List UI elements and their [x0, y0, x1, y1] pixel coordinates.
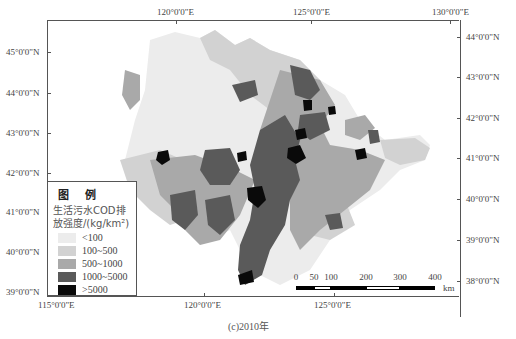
top-tick	[176, 20, 177, 24]
scale-segment	[366, 286, 400, 290]
right-axis-label: 38°0'0"N	[466, 276, 499, 286]
bottom-axis-label: 125°0'0"E	[314, 300, 351, 310]
legend-label: 100~500	[82, 245, 117, 256]
left-axis-label: 42°0'0"N	[6, 168, 39, 178]
bottom-tick	[334, 293, 335, 297]
right-axis-label: 39°0'0"N	[466, 235, 499, 245]
right-tick	[457, 281, 461, 282]
scale-segment	[296, 286, 314, 290]
left-axis-label: 41°0'0"N	[6, 207, 39, 217]
right-axis-line	[460, 20, 461, 317]
top-axis-label: 130°0'0"E	[432, 7, 469, 17]
right-tick	[457, 240, 461, 241]
bottom-axis-label: 115°0'0"E	[38, 300, 75, 310]
right-axis-label: 44°0'0"N	[466, 32, 499, 42]
right-tick	[457, 118, 461, 119]
legend-swatch	[58, 272, 76, 282]
left-axis-label: 39°0'0"N	[6, 287, 39, 297]
top-axis-label: 125°0'0"E	[293, 7, 330, 17]
left-tick	[47, 93, 51, 94]
right-tick	[457, 199, 461, 200]
top-axis-label: 120°0'0"E	[157, 7, 194, 17]
figure-caption: (c)2010年	[228, 318, 269, 333]
scale-unit: km	[443, 283, 455, 293]
legend-swatch	[58, 285, 76, 295]
legend-label: 1000~5000	[82, 271, 127, 282]
right-axis-label: 42°0'0"N	[466, 113, 499, 123]
right-axis-label: 40°0'0"N	[466, 194, 499, 204]
scale-segment	[331, 286, 366, 290]
legend-subtitle: 放强度/(kg/km²)	[53, 215, 129, 230]
left-tick	[47, 133, 51, 134]
right-tick	[457, 158, 461, 159]
legend-swatch	[58, 233, 76, 243]
right-axis-label: 43°0'0"N	[466, 72, 499, 82]
scale-tick-label: 200	[359, 272, 373, 282]
left-axis-label: 45°0'0"N	[6, 47, 39, 57]
left-axis-label: 43°0'0"N	[6, 128, 39, 138]
legend-item: >5000	[58, 284, 108, 295]
legend-item: 100~500	[58, 245, 117, 256]
legend-swatch	[58, 246, 76, 256]
scale-tick-label: 0	[294, 272, 299, 282]
left-tick	[47, 173, 51, 174]
scale-tick-label: 100	[324, 272, 338, 282]
scale-tick-label: 50	[310, 272, 319, 282]
legend-title: 图 例	[58, 186, 102, 202]
map-legend: 图 例 生活污水COD排 放强度/(kg/km²) <100 100~500 5…	[47, 181, 137, 296]
legend-item: <100	[58, 232, 103, 243]
legend-label: <100	[82, 232, 103, 243]
legend-item: 500~1000	[58, 258, 122, 269]
legend-swatch	[58, 259, 76, 269]
scale-tick-label: 400	[428, 272, 442, 282]
left-axis-label: 40°0'0"N	[6, 247, 39, 257]
legend-item: 1000~5000	[58, 271, 127, 282]
bottom-axis-label: 120°0'0"E	[184, 300, 221, 310]
right-tick	[457, 77, 461, 78]
scale-segment	[314, 286, 331, 290]
top-tick	[450, 20, 451, 24]
scale-tick-label: 300	[393, 272, 407, 282]
bottom-tick	[204, 293, 205, 297]
legend-label: >5000	[82, 284, 108, 295]
top-tick	[311, 20, 312, 24]
right-axis-label: 41°0'0"N	[466, 153, 499, 163]
left-tick	[47, 52, 51, 53]
scale-segment	[400, 286, 435, 290]
left-axis-label: 44°0'0"N	[6, 88, 39, 98]
right-tick	[457, 37, 461, 38]
legend-label: 500~1000	[82, 258, 122, 269]
